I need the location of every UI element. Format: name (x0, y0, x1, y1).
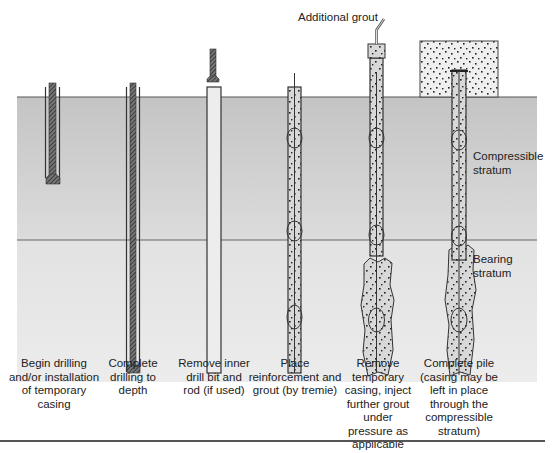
withdrawn-drill-rod (210, 49, 216, 77)
bottom-rule (0, 440, 545, 442)
drill-rod (130, 83, 136, 366)
grout-cap (368, 44, 385, 58)
caption-line: and/or installation (8, 371, 100, 385)
caption-line: Complete (100, 357, 166, 371)
caption-line: (casing may be (415, 371, 503, 385)
step-3-pile (207, 49, 221, 373)
caption-line: reinforcement and (243, 371, 347, 385)
caption-line: under (340, 411, 416, 425)
compressible-stratum-line-2: stratum (473, 164, 543, 178)
caption-line: left in place (415, 384, 503, 398)
step-4-pile (287, 73, 302, 373)
caption-line: pressure as (340, 425, 416, 439)
caption-line: further grout (340, 398, 416, 412)
withdrawn-drill-bit (207, 76, 219, 82)
caption-line: stratum) (415, 425, 503, 439)
caption-line: drilling to (100, 371, 166, 385)
step-2-caption: Complete drilling to depth (100, 357, 166, 398)
caption-line: temporary (340, 371, 416, 385)
compressible-stratum-line-1: Compressible (473, 150, 543, 164)
caption-line: Remove (340, 357, 416, 371)
caption-line: of temporary (8, 384, 100, 398)
step-5-caption: Remove temporary casing, inject further … (340, 357, 416, 452)
caption-line: depth (100, 384, 166, 398)
step-4-caption: Place reinforcement and grout (by tremie… (243, 357, 347, 398)
caption-line: compressible (415, 411, 503, 425)
step-1-caption: Begin drilling and/or installation of te… (8, 357, 100, 411)
caption-line: Place (243, 357, 347, 371)
bearing-stratum-line-1: Bearing (473, 253, 513, 267)
additional-grout-label: Additional grout (298, 11, 378, 25)
drill-rod (49, 83, 56, 176)
drill-bit (46, 174, 60, 184)
bearing-stratum-line-2: stratum (473, 267, 513, 281)
caption-line: casing (8, 398, 100, 412)
bearing-stratum-label: Bearing stratum (473, 253, 513, 280)
caption-line: through the (415, 398, 503, 412)
step-6-caption: Complete pile (casing may be left in pla… (415, 357, 503, 438)
compressible-stratum-label: Compressible stratum (473, 150, 543, 177)
caption-line: casing, inject (340, 384, 416, 398)
caption-line: grout (by tremie) (243, 384, 347, 398)
caption-line: Complete pile (415, 357, 503, 371)
caption-line: Begin drilling (8, 357, 100, 371)
